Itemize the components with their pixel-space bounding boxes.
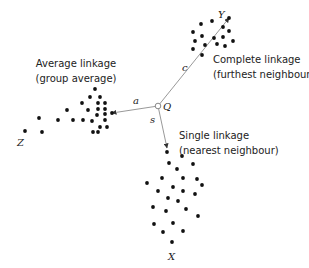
single-linkage-subtitle: (nearest neighbour) (179, 145, 279, 156)
data-point-z (105, 125, 109, 129)
complete-linkage-title: Complete linkage (213, 54, 301, 65)
data-point-x (181, 189, 185, 193)
data-point-x (181, 229, 185, 233)
data-point-z (86, 108, 90, 112)
data-point-x (156, 189, 160, 193)
data-point-x (160, 176, 164, 180)
data-point-y (227, 29, 231, 33)
data-point-x (191, 162, 195, 166)
data-point-x (171, 221, 175, 225)
single-linkage-title: Single linkage (179, 130, 249, 141)
query-point-q (155, 103, 161, 109)
data-point-x (164, 209, 168, 213)
data-point-z (96, 101, 100, 105)
data-point-y (191, 30, 195, 34)
query-point-label: Q (163, 101, 171, 112)
data-point-x (165, 150, 169, 154)
cluster-x-label: X (167, 251, 176, 262)
data-point-x (181, 176, 185, 180)
data-point-y (203, 43, 207, 47)
data-point-z (65, 108, 69, 112)
average-linkage-subtitle: (group average) (36, 73, 117, 84)
data-point-z (23, 129, 27, 133)
data-point-z (103, 107, 107, 111)
data-point-y (212, 36, 216, 40)
linkage-lines (112, 18, 229, 148)
data-point-z (103, 101, 107, 105)
data-point-z (98, 125, 102, 129)
data-point-y (200, 53, 204, 57)
data-point-x (170, 240, 174, 244)
data-point-y (223, 44, 227, 48)
data-point-z (103, 112, 107, 116)
data-point-y (231, 39, 235, 43)
data-point-x (195, 177, 199, 181)
data-point-z (95, 113, 99, 117)
link-label-a: a (133, 95, 139, 106)
data-point-y (210, 19, 214, 23)
data-point-z (110, 111, 114, 115)
link-label-c: c (182, 62, 188, 73)
data-point-y (191, 47, 195, 51)
data-point-x (171, 185, 175, 189)
data-point-x (193, 192, 197, 196)
data-point-z (103, 118, 107, 122)
data-point-z (90, 119, 94, 123)
complete-linkage-subtitle: (furthest neighbour) (213, 69, 309, 80)
data-point-x (161, 230, 165, 234)
average-linkage-title: Average linkage (36, 58, 116, 69)
data-point-x (145, 181, 149, 185)
link-line-x (158, 106, 167, 148)
linkage-diagram: Q Z Y X Average linkage (group average) … (0, 0, 309, 268)
cluster-z-label: Z (16, 137, 25, 148)
data-point-z (81, 118, 85, 122)
data-point-z (88, 95, 92, 99)
data-point-z (56, 118, 60, 122)
data-point-y (221, 35, 225, 39)
link-line-z (112, 106, 158, 113)
data-point-z (96, 130, 100, 134)
data-point-x (196, 214, 200, 218)
data-point-z (93, 87, 97, 91)
data-point-z (96, 107, 100, 111)
link-label-s: s (150, 114, 155, 125)
data-point-x (152, 222, 156, 226)
data-point-z (80, 101, 84, 105)
data-point-z (98, 95, 102, 99)
data-point-y (199, 22, 203, 26)
data-point-x (167, 161, 171, 165)
data-point-x (166, 196, 170, 200)
data-point-z (91, 130, 95, 134)
data-point-y (193, 39, 197, 43)
cluster-y-label: Y (218, 9, 226, 20)
data-point-y (215, 42, 219, 46)
data-point-y (227, 16, 231, 20)
data-point-x (175, 167, 179, 171)
data-point-y (221, 25, 225, 29)
data-point-z (37, 116, 41, 120)
data-point-x (151, 205, 155, 209)
data-point-y (200, 34, 204, 38)
cluster-labels: Z Y X Average linkage (group average) Co… (16, 9, 309, 262)
data-point-z (40, 130, 44, 134)
data-point-x (184, 207, 188, 211)
data-point-x (176, 199, 180, 203)
data-point-z (71, 118, 75, 122)
data-point-x (200, 183, 204, 187)
